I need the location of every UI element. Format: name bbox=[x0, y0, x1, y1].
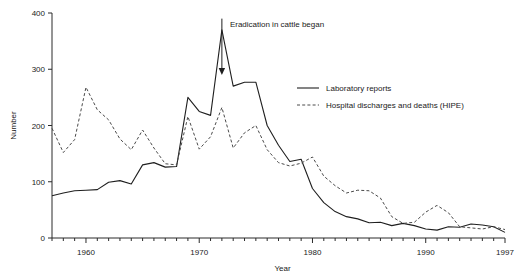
chart-axis-titles: NumberYear bbox=[9, 111, 291, 273]
y-tick-label: 100 bbox=[32, 178, 46, 187]
chart-series bbox=[52, 30, 505, 233]
annotation-arrow-head bbox=[219, 68, 225, 75]
annotation-label: Eradication in cattle began bbox=[230, 20, 324, 29]
y-tick-label: 0 bbox=[41, 234, 46, 243]
x-tick-label: 1980 bbox=[304, 248, 322, 257]
x-tick-label: 1997 bbox=[496, 248, 514, 257]
x-tick-label: 1960 bbox=[77, 248, 95, 257]
y-tick-label: 200 bbox=[32, 122, 46, 131]
y-tick-label: 400 bbox=[32, 9, 46, 18]
legend-label: Laboratory reports bbox=[326, 84, 391, 93]
chart-axes: 010020030040019601970198019901997 bbox=[32, 9, 515, 257]
y-axis-title: Number bbox=[9, 111, 18, 140]
series-line-laboratory-reports bbox=[52, 30, 505, 233]
chart-legend: Laboratory reportsHospital discharges an… bbox=[297, 84, 464, 110]
x-axis-title: Year bbox=[274, 264, 291, 273]
line-chart: 010020030040019601970198019901997 Eradic… bbox=[0, 0, 525, 276]
y-tick-label: 300 bbox=[32, 65, 46, 74]
chart-figure: 010020030040019601970198019901997 Eradic… bbox=[0, 0, 525, 276]
legend-label: Hospital discharges and deaths (HIPE) bbox=[326, 101, 464, 110]
x-tick-label: 1990 bbox=[417, 248, 435, 257]
chart-annotation: Eradication in cattle began bbox=[219, 19, 324, 75]
x-tick-label: 1970 bbox=[190, 248, 208, 257]
